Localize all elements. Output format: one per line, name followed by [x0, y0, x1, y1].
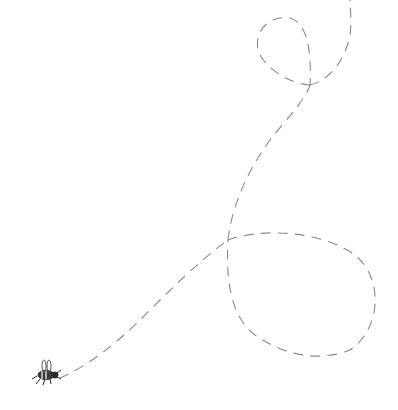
flight-path — [0, 0, 398, 410]
illustration-canvas — [0, 0, 398, 410]
bee-icon — [32, 360, 61, 385]
